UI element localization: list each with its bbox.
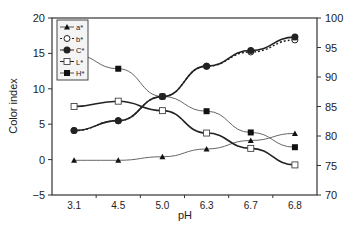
y-axis-label: Color index	[7, 78, 19, 134]
series-H-star	[71, 52, 298, 151]
y-tick-label: 5	[39, 118, 45, 130]
x-tick-label: 3.1	[67, 200, 81, 211]
y-tick-label: 10	[33, 83, 45, 95]
series-a-star	[71, 130, 298, 162]
legend-label: L*	[76, 58, 83, 67]
y-tick-label: 15	[33, 47, 45, 59]
x-tick-label: 6.7	[244, 200, 258, 211]
legend-label: a*	[76, 23, 83, 32]
y-tick-label: 20	[33, 12, 45, 24]
y2-tick-label: 75	[325, 160, 337, 172]
y2-tick-label: 100	[325, 12, 343, 24]
y2-tick-label: 80	[325, 130, 337, 142]
legend-label: C*	[76, 46, 84, 55]
y2-tick-label: 85	[325, 101, 337, 113]
y2-tick-label: 70	[325, 189, 337, 201]
y-tick-label: 0	[39, 154, 45, 166]
plot-frame	[52, 18, 317, 195]
legend-label: b*	[76, 35, 83, 44]
legend: a*b*C*L*H*	[57, 20, 88, 80]
x-tick-label: 6.3	[200, 200, 214, 211]
x-tick-label: 6.8	[288, 200, 302, 211]
y2-tick-label: 95	[325, 42, 337, 54]
x-tick-label: 5.0	[155, 200, 169, 211]
series-L-star	[71, 98, 298, 168]
x-tick-label: 4.5	[111, 200, 125, 211]
y2-tick-label: 90	[325, 71, 337, 83]
legend-label: H*	[76, 69, 84, 78]
y-tick-label: −5	[32, 189, 45, 201]
series-layer	[71, 34, 299, 168]
series-b-star	[71, 37, 298, 134]
line-chart: −5051015207075808590951003.14.55.06.36.7…	[0, 0, 356, 232]
series-C-star	[71, 34, 299, 134]
x-axis-label: pH	[178, 209, 192, 221]
